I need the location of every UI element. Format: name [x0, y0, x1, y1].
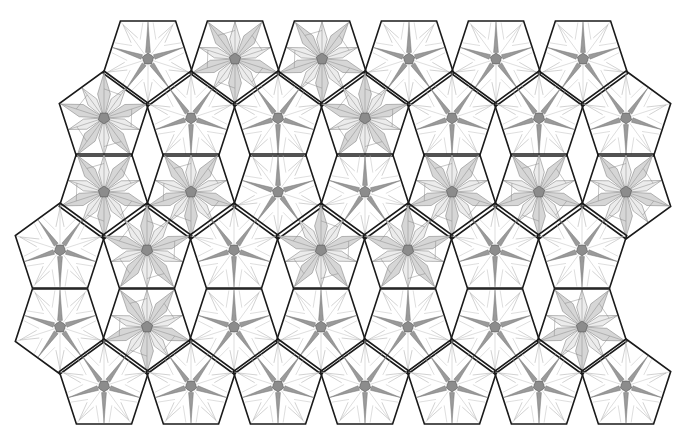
pentagon-tiling-canvas — [0, 0, 690, 439]
